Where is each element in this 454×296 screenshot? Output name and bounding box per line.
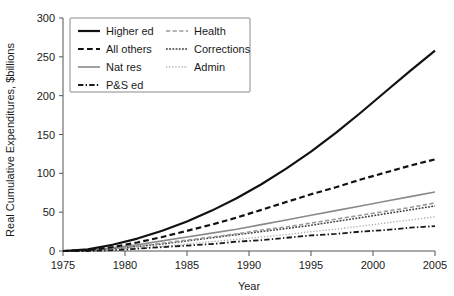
x-tick-label: 1990: [237, 259, 261, 271]
legend-label-all-others: All others: [106, 43, 152, 55]
legend-label-health: Health: [194, 25, 226, 37]
x-tick-label: 1980: [113, 259, 137, 271]
y-tick-label: 250: [37, 51, 55, 63]
y-tick-label: 100: [37, 167, 55, 179]
y-axis-title: Real Cumulative Expenditures, $billions: [4, 43, 16, 237]
legend-label-higher-ed: Higher ed: [106, 25, 154, 37]
y-tick-label: 50: [43, 206, 55, 218]
x-tick-label: 2000: [361, 259, 385, 271]
legend-label-p-s-ed: P&S ed: [106, 79, 143, 91]
x-tick-label: 1995: [299, 259, 323, 271]
x-axis-title: Year: [238, 280, 261, 292]
line-chart: 050100150200250300 197519801985199019952…: [0, 0, 454, 296]
y-tick-label: 0: [49, 245, 55, 257]
series-line-all-others: [63, 159, 435, 251]
y-tick-label: 200: [37, 90, 55, 102]
x-tick-label: 2005: [423, 259, 447, 271]
legend-label-corrections: Corrections: [194, 43, 251, 55]
legend-label-admin: Admin: [194, 61, 225, 73]
y-tick-label: 300: [37, 12, 55, 24]
x-axis-ticks: 1975198019851990199520002005: [51, 251, 447, 271]
legend-label-nat-res: Nat res: [106, 61, 142, 73]
chart-legend: Higher edAll othersNat resP&S edHealthCo…: [70, 18, 251, 92]
y-axis-ticks: 050100150200250300: [37, 12, 63, 257]
x-tick-label: 1975: [51, 259, 75, 271]
chart-figure: 050100150200250300 197519801985199019952…: [0, 0, 454, 296]
y-tick-label: 150: [37, 129, 55, 141]
x-tick-label: 1985: [175, 259, 199, 271]
